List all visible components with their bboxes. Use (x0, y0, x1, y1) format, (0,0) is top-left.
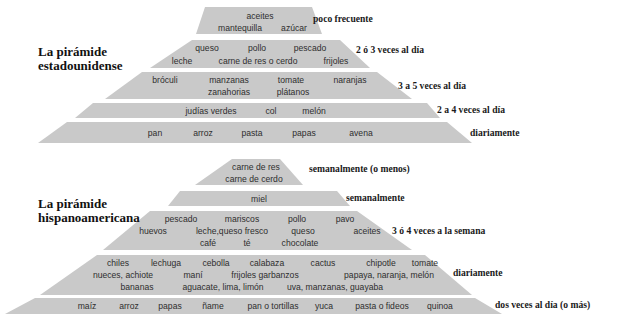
frequency-label: 2 ó 3 veces al día (356, 45, 424, 55)
frequency-label: 2 a 4 veces al día (437, 105, 505, 115)
food-label: maíz (78, 302, 97, 311)
food-label: zanahorias (208, 88, 250, 97)
food-label: cactus (311, 259, 336, 268)
food-label: té (243, 239, 250, 248)
food-label: carne de res (232, 163, 280, 172)
us-pyramid-title: La pirámide estadounidense (38, 45, 123, 73)
food-label: papas (158, 302, 181, 311)
food-label: tomate (412, 259, 438, 268)
hisp-title-line2: hispanoamericana (38, 211, 140, 225)
food-label: pasta o fideos (355, 302, 409, 311)
food-label: plátanos (277, 88, 310, 97)
frequency-label: semanalmente (346, 193, 405, 203)
frequency-label: 3 ó 4 veces a la semana (392, 226, 485, 236)
food-label: bróculi (152, 76, 177, 85)
frequency-label: dos veces al día (o más) (495, 300, 590, 310)
food-label: papas (292, 129, 315, 138)
food-label: pollo (248, 44, 266, 53)
food-label: aceites (353, 227, 380, 236)
food-label: quinoa (427, 302, 453, 311)
food-label: yuca (315, 302, 333, 311)
food-label: judías verdes (185, 107, 236, 116)
food-label: cebolla (202, 259, 229, 268)
food-label: arroz (119, 302, 139, 311)
food-label: ñame (202, 302, 224, 311)
food-label: lechuga (151, 259, 181, 268)
food-label: aceites (246, 12, 273, 21)
us-tier-4 (75, 103, 440, 118)
hispanic-pyramid-title: La pirámide hispanoamericana (38, 197, 140, 225)
food-label: chiles (107, 259, 129, 268)
food-label: mariscos (225, 215, 259, 224)
food-label: pasta (241, 129, 262, 138)
food-label: melón (302, 107, 325, 116)
food-label: leche (172, 57, 193, 66)
food-label: tomate (278, 76, 304, 85)
hisp-title-line1: La pirámide (38, 197, 140, 211)
food-label: calabaza (250, 259, 284, 268)
food-label: frijoles (324, 57, 349, 66)
food-label: frijoles garbanzos (231, 271, 298, 280)
us-title-line2: estadounidense (38, 59, 123, 73)
food-label: mantequilla (218, 24, 262, 33)
us-title-line1: La pirámide (38, 45, 123, 59)
frequency-label: diariamente (470, 128, 520, 138)
food-label: café (200, 239, 216, 248)
food-label: carne de res o cerdo (219, 57, 298, 66)
food-label: pan o tortillas (247, 302, 298, 311)
food-label: pollo (288, 215, 306, 224)
food-label: avena (349, 129, 372, 138)
food-label: bananas (121, 283, 154, 292)
food-label: huevos (139, 227, 167, 236)
food-label: queso (291, 227, 314, 236)
food-label: queso (195, 44, 218, 53)
food-label: nueces, achiote (93, 271, 153, 280)
food-pyramids-diagram: La pirámide estadounidense aceites mante… (0, 0, 617, 331)
food-label: pan (148, 129, 162, 138)
food-label: pescado (165, 215, 198, 224)
food-label: azúcar (281, 24, 307, 33)
frequency-label: semanalmente (o menos) (309, 164, 410, 174)
frequency-label: 3 a 5 veces al día (398, 81, 466, 91)
food-label: arroz (193, 129, 213, 138)
food-label: maní (183, 271, 202, 280)
food-label: manzanas (209, 76, 249, 85)
food-label: leche,queso fresco (196, 227, 268, 236)
frequency-label: diariamente (453, 268, 503, 278)
food-label: chipotle (366, 259, 396, 268)
food-label: aguacate, lima, limón (182, 283, 263, 292)
food-label: naranjas (334, 76, 367, 85)
food-label: chocolate (282, 239, 319, 248)
frequency-label: poco frecuente (313, 14, 373, 24)
food-label: papaya, naranja, melón (344, 271, 434, 280)
food-label: pavo (336, 215, 355, 224)
food-label: pescado (294, 44, 327, 53)
food-label: col (266, 107, 277, 116)
food-label: carne de cerdo (225, 175, 282, 184)
food-label: miel (251, 195, 267, 204)
food-label: uva, manzanas, guayaba (287, 283, 383, 292)
